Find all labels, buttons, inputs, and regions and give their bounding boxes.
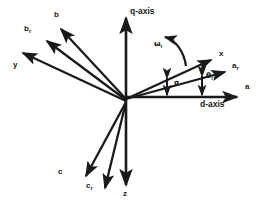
theta-r-angle-label-sub: r	[211, 75, 213, 81]
alpha-angle-label: α	[174, 79, 179, 87]
ar-axis-label-sub: r	[236, 65, 238, 71]
omega-r-label-base: ω	[154, 39, 161, 48]
b-axis-line	[61, 29, 126, 99]
theta-r-angle-label: θr	[206, 72, 213, 80]
cr-axis-line	[105, 102, 126, 188]
vector-diagram: q-axis d-axis z a ar x b br y c cr α θr …	[0, 0, 267, 210]
omega-r-label-sub: r	[161, 43, 163, 49]
cr-axis-label-sub: r	[90, 185, 92, 191]
br-axis-label: br	[24, 25, 31, 33]
q-axis-label: q-axis	[130, 7, 155, 16]
d-axis-label: d-axis	[200, 100, 225, 109]
cr-axis-label: cr	[86, 182, 93, 190]
y-axis-label: y	[13, 61, 17, 69]
ar-axis-label: ar	[232, 62, 239, 70]
omega-r-rotation-arrow	[165, 37, 186, 66]
a-axis-label: a	[245, 83, 249, 91]
z-axis-label: z	[123, 190, 127, 198]
b-axis-label: b	[54, 11, 59, 19]
c-axis-label: c	[58, 168, 62, 176]
vector-graphics-canvas	[0, 0, 267, 210]
c-axis-line	[86, 102, 126, 176]
x-axis-label: x	[219, 50, 223, 58]
omega-r-label: ωr	[154, 40, 163, 48]
br-axis-label-sub: r	[29, 28, 31, 34]
